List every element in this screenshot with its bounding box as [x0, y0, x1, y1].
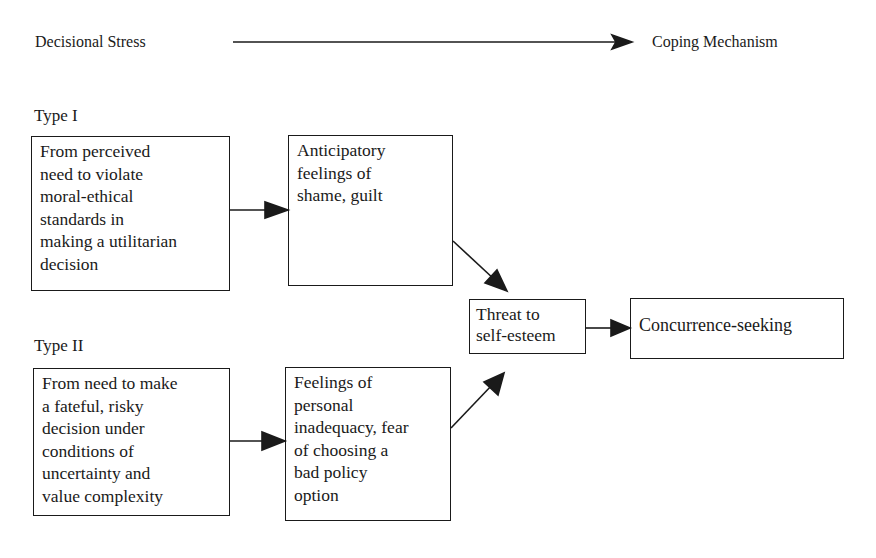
text-line: personal [294, 394, 450, 417]
text-line: uncertainty and [42, 462, 229, 485]
text-line: From perceived [40, 140, 229, 163]
text-line: inadequacy, fear [294, 416, 450, 439]
arrowhead-icon [484, 373, 504, 395]
type-1-stress-box: From perceived need to violate moral-eth… [31, 136, 230, 291]
arrow-type1-feeling-to-threat [453, 241, 495, 280]
text-line: decision [40, 253, 229, 276]
header-arrowhead-icon [612, 35, 632, 49]
text-line: a fateful, risky [42, 395, 229, 418]
type-2-label: Type II [34, 336, 83, 356]
threat-to-self-esteem-box: Threat to self-esteem [469, 299, 586, 354]
arrowhead-icon [485, 270, 507, 291]
text-line: need to violate [40, 163, 229, 186]
arrowhead-icon [262, 432, 285, 450]
text-line: Threat to [476, 304, 585, 325]
text-line: self-esteem [476, 325, 585, 346]
decisional-stress-label: Decisional Stress [35, 33, 146, 51]
concurrence-seeking-box: Concurrence-seeking [630, 298, 844, 359]
type-2-stress-box: From need to make a fateful, risky decis… [33, 368, 230, 516]
text-line: conditions of [42, 440, 229, 463]
type-1-label: Type I [34, 106, 78, 126]
arrowhead-icon [265, 202, 288, 218]
text-line: Anticipatory [297, 139, 452, 162]
type-2-feeling-box: Feelings of personal inadequacy, fear of… [285, 367, 451, 521]
text-line: feelings of [297, 162, 452, 185]
type-1-feeling-box: Anticipatory feelings of shame, guilt [288, 135, 453, 286]
text-line: option [294, 484, 450, 507]
text-line: bad policy [294, 461, 450, 484]
arrowhead-icon [611, 320, 630, 336]
text-line: decision under [42, 417, 229, 440]
text-line: shame, guilt [297, 184, 452, 207]
arrow-type2-feeling-to-threat [451, 384, 493, 428]
text-line: moral-ethical [40, 185, 229, 208]
text-line: making a utilitarian [40, 230, 229, 253]
text-line: From need to make [42, 372, 229, 395]
text-line: Feelings of [294, 371, 450, 394]
text-line: value complexity [42, 485, 229, 508]
text-line: Concurrence-seeking [639, 314, 843, 337]
text-line: standards in [40, 208, 229, 231]
coping-mechanism-label: Coping Mechanism [652, 33, 778, 51]
text-line: of choosing a [294, 439, 450, 462]
